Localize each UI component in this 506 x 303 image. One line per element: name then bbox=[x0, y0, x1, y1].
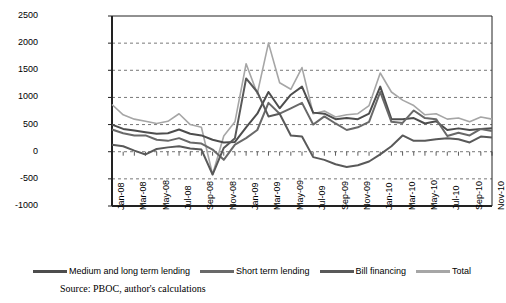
legend-swatch-icon bbox=[416, 270, 450, 273]
x-axis-tick-label: Nov-10 bbox=[496, 181, 506, 210]
x-axis-tick-label: Sep-10 bbox=[474, 181, 484, 210]
x-axis-tick-label: Jan-09 bbox=[250, 182, 260, 210]
x-axis-tick-label: Mar-08 bbox=[138, 181, 148, 210]
x-axis-tick-label: Sep-09 bbox=[340, 181, 350, 210]
x-axis-tick-label: Jul-09 bbox=[317, 185, 327, 210]
legend-swatch-icon bbox=[320, 270, 354, 273]
y-axis-tick-label: 1000 bbox=[0, 91, 38, 101]
legend-label: Short term lending bbox=[236, 266, 310, 276]
y-axis-tick-label: 1500 bbox=[0, 64, 38, 74]
y-axis-tick-label: 2000 bbox=[0, 37, 38, 47]
x-axis-tick-label: Jul-08 bbox=[183, 185, 193, 210]
x-axis-tick-label: Nov-08 bbox=[228, 181, 238, 210]
legend-swatch-icon bbox=[200, 270, 234, 273]
source-note: Source: PBOC, author's calculations bbox=[60, 283, 206, 294]
x-axis-tick-label: May-09 bbox=[295, 180, 305, 210]
y-axis-tick-label: 2500 bbox=[0, 10, 38, 20]
legend-swatch-icon bbox=[33, 270, 67, 273]
y-axis-tick-label: 0 bbox=[0, 146, 38, 156]
x-axis-tick-label: May-10 bbox=[429, 180, 439, 210]
x-axis-tick-label: Jan-08 bbox=[116, 182, 126, 210]
legend-item: Total bbox=[416, 266, 471, 276]
legend-item: Bill financing bbox=[320, 266, 407, 276]
legend-label: Bill financing bbox=[356, 266, 407, 276]
chart-legend: Medium and long term lendingShort term l… bbox=[0, 264, 504, 278]
x-axis-tick-label: Sep-08 bbox=[205, 181, 215, 210]
x-axis-tick-label: Mar-10 bbox=[407, 181, 417, 210]
legend-item: Medium and long term lending bbox=[33, 266, 190, 276]
legend-label: Medium and long term lending bbox=[69, 266, 190, 276]
y-axis-tick-label: 500 bbox=[0, 119, 38, 129]
legend-item: Short term lending bbox=[200, 266, 310, 276]
x-axis-tick-label: Jan-10 bbox=[384, 182, 394, 210]
x-axis-tick-label: Mar-09 bbox=[272, 181, 282, 210]
y-axis-tick-label: -500 bbox=[0, 173, 38, 183]
y-axis-tick-label: -1000 bbox=[0, 200, 38, 210]
x-axis-tick-label: Jul-10 bbox=[451, 185, 461, 210]
x-axis-tick-label: Nov-09 bbox=[362, 181, 372, 210]
x-axis-tick-label: May-08 bbox=[161, 180, 171, 210]
legend-label: Total bbox=[452, 266, 471, 276]
